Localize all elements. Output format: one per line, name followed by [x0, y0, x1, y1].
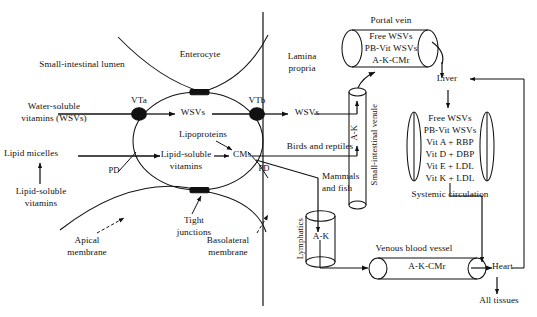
label-wsvs-lamina-propria: WSVs [288, 108, 326, 118]
label-lamina-propria-line2: propria [278, 64, 326, 74]
portal-vein-content-2: A-K-CMr [352, 56, 430, 66]
label-tight-junctions-line1: Tight [170, 216, 218, 226]
transporter-vta-glyph [132, 108, 147, 120]
tight-junction-leader [192, 196, 201, 214]
label-lamina-propria-line1: Lamina [278, 52, 326, 62]
systemic-content-0: Free WSVs [414, 114, 486, 124]
label-lsv-in-enterocyte-line1: Lipid-soluble [156, 150, 216, 160]
label-lipoproteins: Lipoproteins [170, 130, 236, 140]
lipoprotein-hook-arrow [216, 141, 232, 150]
label-apical-membrane-line2: membrane [55, 248, 119, 258]
label-portal-vein: Portal vein [355, 16, 427, 26]
portal-vein-content-0: Free WSVs [352, 32, 430, 42]
venule-to-portal-vein-arrow [358, 72, 375, 88]
label-transporter-vtb: VTb [243, 96, 271, 106]
label-lipid-soluble-vitamins-line2: vitamins [2, 199, 80, 209]
vitamin-absorption-diagram: Small-intestinal lumen Enterocyte Lamina… [0, 0, 537, 317]
label-apical-membrane-line1: Apical [62, 236, 112, 246]
systemic-content-4: Vit E + LDL [412, 162, 488, 172]
label-wsvs-in-enterocyte: WSVs [174, 108, 212, 118]
apical-membrane-leader [97, 218, 124, 233]
systemic-content-1: PB-Vit WSVs [410, 126, 490, 136]
basolateral-membrane-arc-upper [202, 35, 268, 92]
transporter-vtb-glyph [250, 108, 265, 120]
label-chylomicrons: CMs [228, 150, 256, 160]
label-pd-apical: PD [104, 166, 124, 175]
venule-top-cap [349, 88, 366, 96]
label-systemic-circulation: Systemic circulation [396, 190, 504, 200]
portal-vein-content-1: PB-Vit WSVs [348, 44, 434, 54]
systemic-content-5: Vit K + LDL [412, 174, 488, 184]
venule-bottom-cap [349, 201, 366, 209]
label-lymphatics: Lymphatics [296, 208, 305, 270]
label-enterocyte: Enterocyte [168, 50, 232, 60]
label-liver: Liver [428, 74, 466, 84]
tight-junction-apical [190, 90, 209, 95]
label-transporter-vta: VTa [125, 96, 153, 106]
label-water-soluble-vitamins-line2: vitamins (WSVs) [4, 114, 104, 124]
lymphatics-content-0: A-K [306, 232, 336, 242]
label-lipid-soluble-vitamins-line1: Lipid-soluble [2, 187, 80, 197]
label-heart: Heart [492, 262, 532, 272]
tight-junction-basolateral [190, 188, 209, 193]
lymphatic-top-cap [306, 211, 335, 221]
systemic-content-3: Vit D + DBP [412, 150, 488, 160]
label-water-soluble-vitamins-line1: Water-soluble [8, 102, 100, 112]
venous-left-cap [369, 258, 387, 279]
label-small-intestinal-venule: Small-intestinal venule [370, 90, 379, 200]
label-small-intestinal-lumen: Small-intestinal lumen [18, 60, 146, 70]
label-all-tissues: All tissues [468, 296, 530, 306]
label-basolateral-membrane-line2: membrane [196, 248, 260, 258]
venous-content-0: A-K-CMr [394, 262, 460, 272]
label-basolateral-membrane-line1: Basolateral [196, 236, 260, 246]
label-lsv-in-enterocyte-line2: vitamins [156, 162, 216, 172]
venule-content-0: A-K [350, 118, 359, 148]
label-venous-blood-vessel: Venous blood vessel [358, 244, 470, 254]
systemic-content-2: Vit A + RBP [412, 138, 488, 148]
label-lipid-micelles: Lipid micelles [4, 149, 80, 159]
label-pd-basolateral: PD [254, 164, 274, 173]
